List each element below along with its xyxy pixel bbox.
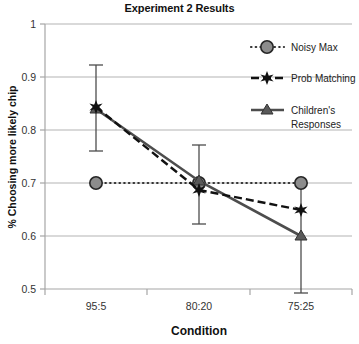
- x-axis-title: Condition: [171, 324, 227, 338]
- chart-container: Experiment 2 Results 1 0.9 0.8 0.7 0.6: [0, 0, 359, 344]
- circle-marker-icon: [261, 41, 273, 53]
- legend-label: Responses: [291, 119, 341, 130]
- y-axis-title: % Choosing more likely chip: [6, 86, 18, 229]
- y-tick-label: 1: [30, 18, 36, 30]
- legend-label: Prob Matching: [291, 73, 355, 84]
- y-tick-label: 0.5: [21, 283, 36, 295]
- chart-plot: 1 0.9 0.8 0.7 0.6 0.5 % Choosing more li…: [0, 0, 359, 344]
- data-point: [295, 177, 307, 189]
- star-marker-icon: [260, 71, 273, 85]
- legend-label: Children's: [291, 105, 335, 116]
- x-tick-label: 75:25: [288, 300, 314, 312]
- legend-item-childrens-responses: Children's Responses: [251, 104, 341, 130]
- x-tick-label: 80:20: [186, 300, 212, 312]
- legend-item-prob-matching: Prob Matching: [251, 71, 355, 85]
- x-axis: [45, 289, 352, 295]
- y-tick-label: 0.7: [21, 177, 36, 189]
- chart-legend: Noisy Max Prob Matching Children's Respo…: [251, 41, 355, 130]
- x-tick-label: 95:5: [86, 300, 107, 312]
- data-point: [90, 177, 102, 189]
- x-tick-labels: 95:5 80:20 75:25: [86, 300, 315, 312]
- y-tick-label: 0.6: [21, 230, 36, 242]
- y-axis: [40, 24, 45, 289]
- legend-label: Noisy Max: [291, 42, 338, 53]
- legend-item-noisy-max: Noisy Max: [251, 41, 338, 53]
- y-tick-label: 0.8: [21, 124, 36, 136]
- y-tick-label: 0.9: [21, 71, 36, 83]
- y-tick-labels: 1 0.9 0.8 0.7 0.6 0.5: [21, 18, 36, 295]
